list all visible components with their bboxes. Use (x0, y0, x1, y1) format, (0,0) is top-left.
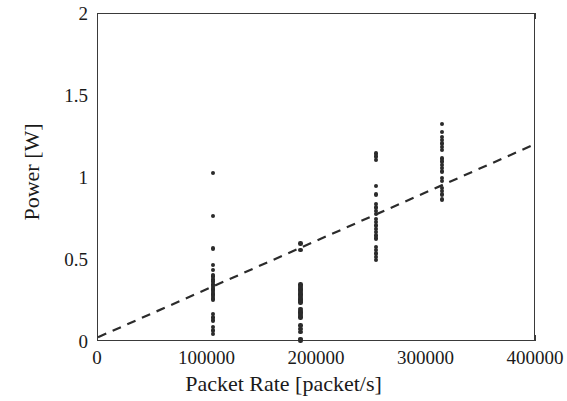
x-tick-label: 300000 (397, 348, 454, 367)
y-tick-label: 1 (79, 168, 89, 187)
data-point (211, 246, 215, 250)
x-tick-label: 400000 (507, 348, 564, 367)
data-point (374, 184, 378, 188)
x-tick-label: 200000 (288, 348, 345, 367)
data-point (211, 268, 215, 272)
data-point (440, 197, 444, 201)
x-tick-label: 0 (92, 348, 102, 367)
plot-area (97, 13, 535, 341)
data-points-layer (98, 14, 534, 340)
x-tick-mark (535, 335, 536, 341)
y-tick-label: 0 (79, 332, 89, 351)
data-point (298, 300, 302, 304)
data-point (440, 192, 444, 196)
data-point (374, 258, 378, 262)
x-tick-mark-top (535, 13, 536, 19)
data-point (298, 315, 302, 319)
data-point (440, 122, 444, 126)
data-point (440, 179, 444, 183)
data-point (440, 169, 444, 173)
data-point (298, 241, 302, 245)
data-point (374, 158, 378, 162)
data-point (211, 171, 215, 175)
data-point (211, 297, 215, 301)
data-point (298, 248, 302, 252)
data-point (211, 263, 215, 267)
data-point (211, 214, 215, 218)
x-axis-title: Packet Rate [packet/s] (0, 372, 567, 396)
data-point (374, 192, 378, 196)
data-point (211, 318, 215, 322)
data-point (440, 130, 444, 134)
y-tick-label: 0.5 (64, 250, 88, 269)
data-point (211, 332, 215, 336)
scatter-chart-figure: Power [W] Packet Rate [packet/s] 00.511.… (0, 0, 567, 401)
data-point (298, 330, 302, 334)
data-point (374, 236, 378, 240)
y-tick-label: 1.5 (64, 86, 88, 105)
y-axis-title: Power [W] (20, 62, 44, 282)
y-tick-label: 2 (79, 4, 89, 23)
data-point (440, 148, 444, 152)
data-point (298, 338, 302, 342)
data-point (374, 212, 378, 216)
x-tick-label: 100000 (178, 348, 235, 367)
